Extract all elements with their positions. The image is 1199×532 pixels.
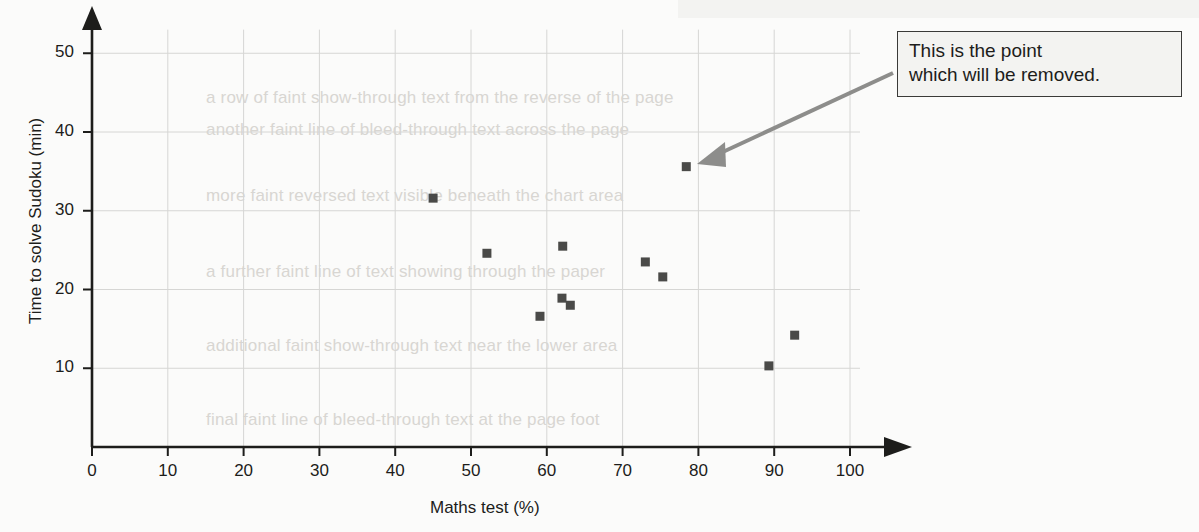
data-point — [429, 194, 438, 203]
data-point — [764, 361, 773, 370]
y-tick-label: 50 — [24, 42, 74, 62]
x-axis-arrowhead — [884, 437, 912, 457]
x-tick-label: 20 — [219, 461, 269, 481]
callout-arrow-head — [697, 142, 726, 167]
y-tick-label: 10 — [24, 357, 74, 377]
y-tick-label: 40 — [24, 121, 74, 141]
callout-arrow-shaft — [712, 73, 893, 157]
data-point — [641, 257, 650, 266]
x-tick-label: 70 — [598, 461, 648, 481]
data-point — [482, 249, 491, 258]
x-tick-label: 100 — [825, 461, 875, 481]
axis-ticks — [83, 53, 850, 456]
data-point — [558, 242, 567, 251]
x-tick-label: 60 — [522, 461, 572, 481]
x-tick-label: 10 — [143, 461, 193, 481]
data-point — [566, 301, 575, 310]
axes — [82, 6, 912, 457]
data-point — [535, 312, 544, 321]
y-tick-label: 20 — [24, 279, 74, 299]
y-axis-arrowhead — [82, 6, 102, 30]
gridlines — [92, 30, 860, 447]
x-tick-label: 30 — [294, 461, 344, 481]
x-tick-label: 50 — [446, 461, 496, 481]
y-tick-label: 30 — [24, 200, 74, 220]
scanned-page: a row of faint show-through text from th… — [0, 0, 1199, 532]
annotation-line-1: This is the point — [909, 39, 1170, 63]
annotation-line-2: which will be removed. — [909, 63, 1170, 87]
x-tick-label: 80 — [673, 461, 723, 481]
annotation-callout: This is the point which will be removed. — [897, 31, 1182, 97]
data-markers — [429, 162, 800, 370]
data-point — [658, 272, 667, 281]
x-axis-title: Maths test (%) — [430, 498, 540, 518]
data-point-highlighted — [682, 162, 691, 171]
annotation-arrow — [697, 73, 893, 167]
data-point — [557, 294, 566, 303]
x-tick-label: 90 — [749, 461, 799, 481]
data-point — [790, 331, 799, 340]
x-tick-label: 40 — [370, 461, 420, 481]
x-tick-label: 0 — [67, 461, 117, 481]
